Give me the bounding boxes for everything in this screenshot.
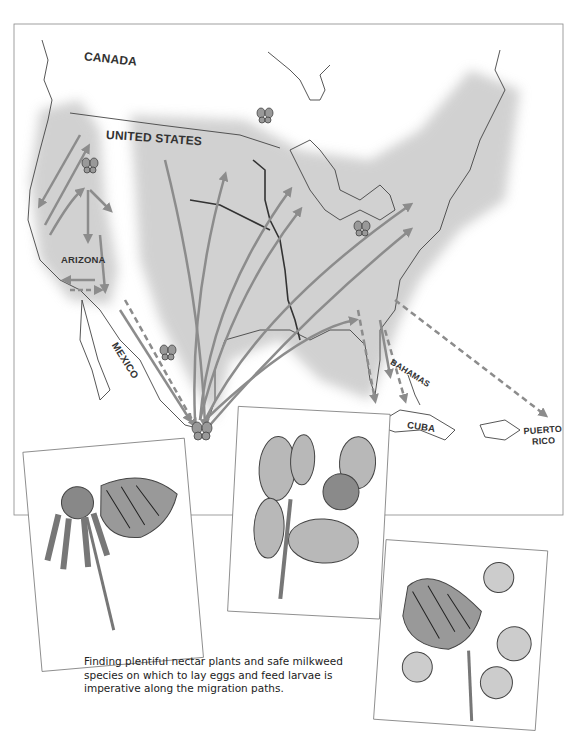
label-arizona: ARIZONA (61, 254, 106, 265)
caption-line-1: Finding plentiful nectar plants and safe… (84, 655, 364, 669)
migration-map (0, 0, 571, 733)
illustration-card-coneflower (23, 438, 204, 671)
illustration-card-aster (374, 540, 548, 731)
label-puerto-rico: PUERTO RICO (523, 424, 563, 449)
caption-line-2: species on which to lay eggs and feed la… (84, 669, 364, 683)
illustration-card-milkweed (228, 406, 391, 619)
caption: Finding plentiful nectar plants and safe… (84, 655, 364, 696)
caption-line-3: imperative along the migration paths. (84, 682, 364, 696)
